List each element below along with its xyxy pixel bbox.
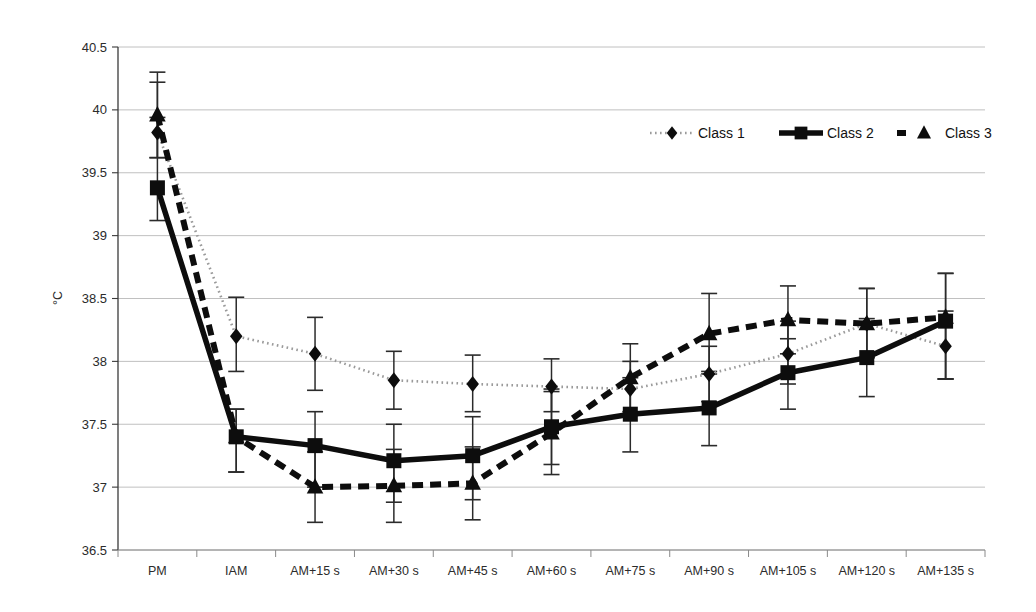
data-point-marker-square	[780, 365, 795, 380]
x-tick-label: IAM	[225, 564, 247, 578]
x-tick-label: AM+135 s	[917, 564, 974, 578]
data-point-marker-diamond	[782, 346, 794, 362]
data-point-marker-diamond	[667, 126, 678, 140]
chart-legend: Class 1Class 2Class 3	[650, 125, 992, 141]
data-point-marker-square	[702, 400, 717, 415]
data-point-marker-square	[544, 419, 559, 434]
x-tick-label: AM+15 s	[290, 564, 340, 578]
data-point-marker-diamond	[466, 376, 478, 392]
y-axis-label: °C	[51, 291, 65, 305]
x-tick-label: AM+30 s	[369, 564, 419, 578]
data-point-marker-diamond	[230, 328, 242, 344]
series-markers-class-2	[150, 180, 953, 468]
x-tick-label: AM+75 s	[605, 564, 655, 578]
y-tick-label: 36.5	[82, 543, 107, 558]
data-point-marker-square	[229, 429, 244, 444]
data-point-marker-square	[623, 407, 638, 422]
data-point-marker-square	[386, 453, 401, 468]
legend-item-class-3[interactable]: Class 3	[897, 125, 992, 141]
legend-item-class-2[interactable]: Class 2	[779, 125, 874, 141]
data-point-marker-square	[465, 448, 480, 463]
data-point-marker-diamond	[388, 372, 400, 388]
x-tick-label: AM+105 s	[760, 564, 817, 578]
series-class-1	[157, 133, 945, 390]
x-tick-label: AM+45 s	[448, 564, 498, 578]
y-tick-label: 39.5	[82, 165, 107, 180]
y-tick-label: 38	[93, 354, 107, 369]
data-point-marker-square	[859, 350, 874, 365]
series-line-class-1	[157, 133, 945, 390]
legend-label: Class 2	[827, 125, 874, 141]
series-markers-class-3	[149, 106, 954, 494]
data-point-marker-square	[795, 127, 808, 140]
y-tick-label: 39	[93, 228, 107, 243]
y-tick-label: 40.5	[82, 40, 107, 55]
legend-item-class-1[interactable]: Class 1	[650, 125, 745, 141]
y-tick-label: 40	[93, 102, 107, 117]
data-point-marker-diamond	[703, 366, 715, 382]
x-tick-label: PM	[148, 564, 167, 578]
y-tick-label: 37	[93, 480, 107, 495]
y-tick-label: 37.5	[82, 417, 107, 432]
x-tick-label: AM+60 s	[527, 564, 577, 578]
data-point-marker-triangle	[917, 125, 931, 138]
x-axis-ticks: PMIAMAM+15 sAM+30 sAM+45 sAM+60 sAM+75 s…	[118, 550, 985, 578]
chart-canvas: 36.53737.53838.53939.54040.5 PMIAMAM+15 …	[0, 0, 1036, 612]
data-point-marker-diamond	[309, 346, 321, 362]
legend-label: Class 1	[698, 125, 745, 141]
x-tick-label: AM+120 s	[838, 564, 895, 578]
y-tick-label: 38.5	[82, 291, 107, 306]
data-point-marker-triangle	[149, 106, 166, 121]
series-markers-class-1	[151, 125, 952, 398]
data-point-marker-diamond	[939, 338, 951, 354]
data-point-marker-square	[308, 438, 323, 453]
y-axis-ticks: 36.53737.53838.53939.54040.5	[82, 40, 118, 558]
data-point-marker-square	[150, 180, 165, 195]
temperature-line-chart: 36.53737.53838.53939.54040.5 PMIAMAM+15 …	[0, 0, 1036, 612]
legend-label: Class 3	[945, 125, 992, 141]
x-tick-label: AM+90 s	[684, 564, 734, 578]
data-point-marker-square	[938, 314, 953, 329]
